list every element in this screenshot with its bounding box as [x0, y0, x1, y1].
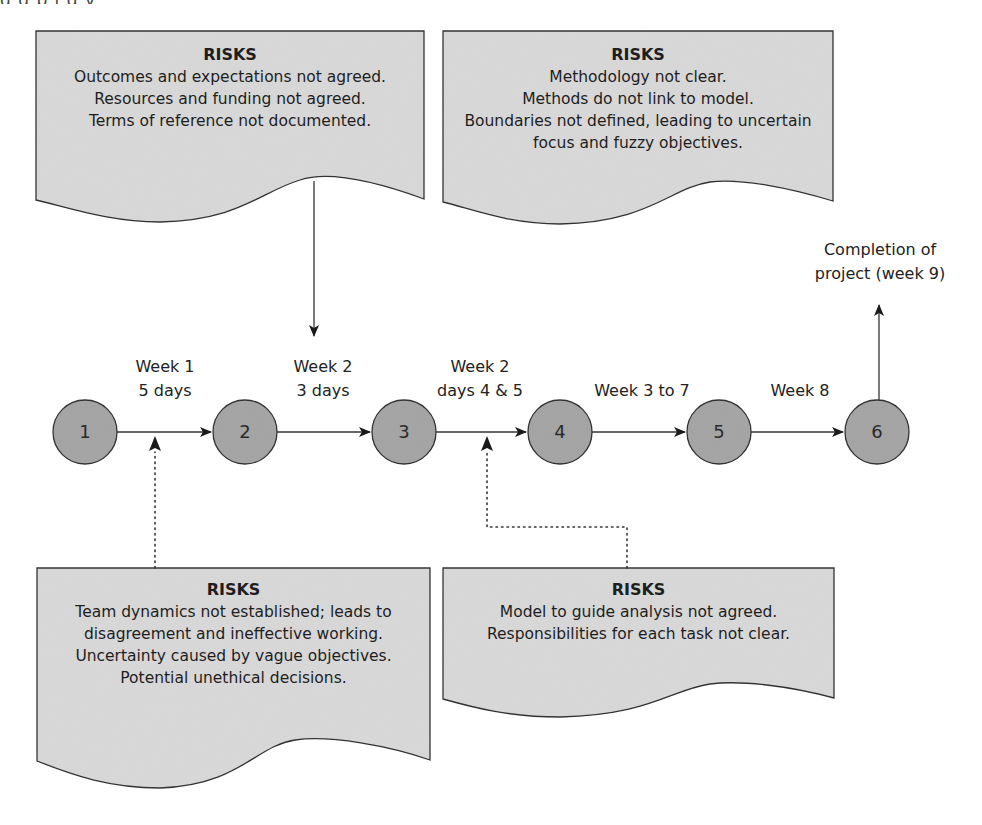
risk-title: RISKS	[443, 579, 834, 601]
node-3-label: 3	[372, 400, 436, 464]
node-5-label: 5	[687, 400, 751, 464]
completion-label: Completion of project (week 9)	[805, 238, 955, 286]
dotted-risk-arrow-right	[487, 452, 627, 568]
risk-line: disagreement and ineffective working.	[37, 623, 430, 645]
risk-line: Responsibilities for each task not clear…	[443, 623, 834, 645]
risk-line: Resources and funding not agreed.	[36, 88, 424, 110]
arrowhead-up-right-icon	[481, 436, 493, 451]
completion-line2: project (week 9)	[805, 262, 955, 286]
node-4-label: 4	[528, 400, 592, 464]
risk-line: Potential unethical decisions.	[37, 667, 430, 689]
edge-label-line2: 5 days	[110, 379, 220, 403]
edge-label-1-2: Week 1 5 days	[110, 355, 220, 403]
edge-label-line1: Week 2	[268, 355, 378, 379]
risk-line: Methods do not link to model.	[443, 88, 833, 110]
edge-label-line1: Week 2	[420, 355, 540, 379]
edge-label-5-6: Week 8	[750, 379, 850, 403]
risk-text-bottom-right: RISKS Model to guide analysis not agreed…	[443, 579, 834, 645]
risk-line: Methodology not clear.	[443, 66, 833, 88]
edge-label-line2: days 4 & 5	[420, 379, 540, 403]
edge-label-line2: Week 8	[750, 379, 850, 403]
risk-line: Boundaries not defined, leading to uncer…	[443, 110, 833, 132]
risk-text-top-left: RISKS Outcomes and expectations not agre…	[36, 44, 424, 132]
risk-title: RISKS	[36, 44, 424, 66]
risk-line: focus and fuzzy objectives.	[443, 132, 833, 154]
risk-line: Uncertainty caused by vague objectives.	[37, 645, 430, 667]
edge-label-2-3: Week 2 3 days	[268, 355, 378, 403]
node-1-label: 1	[53, 400, 117, 464]
node-6-label: 6	[845, 400, 909, 464]
risk-text-top-right: RISKS Methodology not clear. Methods do …	[443, 44, 833, 154]
risk-title: RISKS	[443, 44, 833, 66]
risk-text-bottom-left: RISKS Team dynamics not established; lea…	[37, 579, 430, 689]
risk-line: Terms of reference not documented.	[36, 110, 424, 132]
edge-label-4-5: Week 3 to 7	[577, 379, 707, 403]
edge-label-line2: 3 days	[268, 379, 378, 403]
risk-line: Outcomes and expectations not agreed.	[36, 66, 424, 88]
risk-title: RISKS	[37, 579, 430, 601]
risk-line: Team dynamics not established; leads to	[37, 601, 430, 623]
edge-label-line2: Week 3 to 7	[577, 379, 707, 403]
edge-label-3-4: Week 2 days 4 & 5	[420, 355, 540, 403]
edge-label-line1: Week 1	[110, 355, 220, 379]
risk-line: Model to guide analysis not agreed.	[443, 601, 834, 623]
node-2-label: 2	[213, 400, 277, 464]
arrowhead-up-left-icon	[149, 436, 161, 451]
completion-line1: Completion of	[805, 238, 955, 262]
